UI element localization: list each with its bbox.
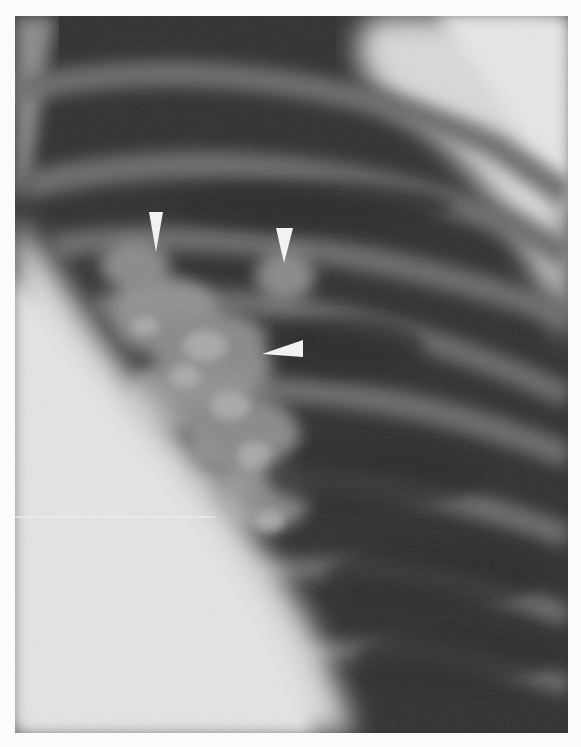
radiograph-image bbox=[15, 16, 568, 733]
radiograph-rendering bbox=[15, 16, 568, 733]
